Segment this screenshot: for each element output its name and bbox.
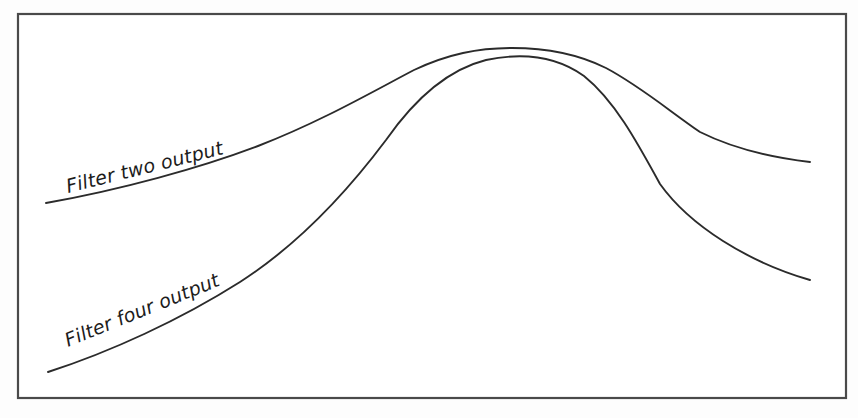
figure-container: Filter two output Filter four output bbox=[0, 0, 858, 418]
plot-area: Filter two output Filter four output bbox=[0, 0, 858, 418]
plot-frame-border bbox=[18, 14, 846, 398]
